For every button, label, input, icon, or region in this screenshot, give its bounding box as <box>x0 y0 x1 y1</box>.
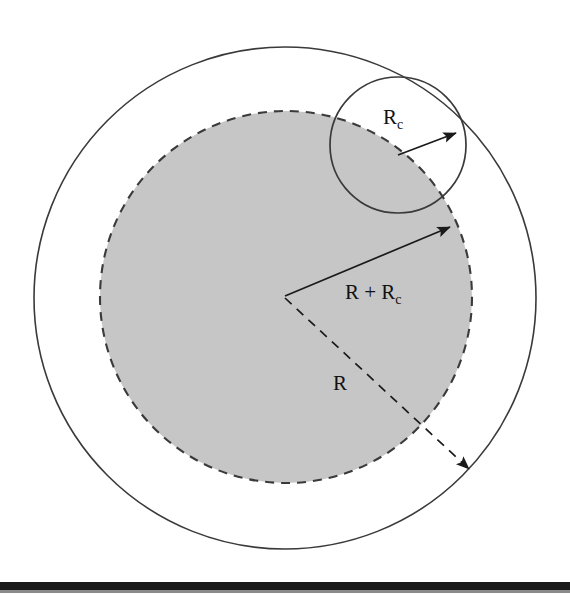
page-edge-bar-shadow <box>0 590 570 593</box>
arrow-small-radius <box>398 133 456 155</box>
figure-canvas: Rc R + Rc R <box>0 0 570 595</box>
colloid-disc-shaded <box>100 111 472 483</box>
label-sum-radius: R + Rc <box>345 280 402 307</box>
page-edge-bar <box>0 582 570 590</box>
label-small-radius: Rc <box>383 105 403 132</box>
label-big-radius: R <box>333 371 347 395</box>
diagram-svg: Rc R + Rc R <box>0 0 570 595</box>
